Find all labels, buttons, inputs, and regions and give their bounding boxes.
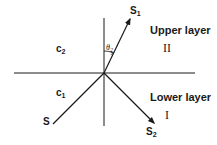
label-s1: S1: [130, 6, 141, 17]
label-s2: S2: [146, 127, 157, 138]
s1-base: S: [130, 5, 137, 16]
s2-base: S: [146, 126, 153, 137]
label-s-incident: S: [43, 117, 50, 127]
s1-sub: 1: [137, 10, 141, 17]
s2-sub: 2: [153, 131, 157, 138]
theta-sub: 2: [110, 47, 113, 53]
c2-sub: 2: [62, 48, 66, 55]
label-upper-numeral: II: [163, 42, 171, 54]
reflected-ray-s2: [104, 73, 154, 123]
label-theta2: θ2: [106, 37, 113, 53]
label-lower-layer: Lower layer: [150, 92, 211, 103]
diagram-canvas: [0, 0, 217, 145]
label-upper-layer: Upper layer: [150, 25, 211, 36]
label-c2: c2: [56, 44, 65, 55]
label-c1: c1: [56, 88, 65, 99]
c1-sub: 1: [62, 92, 66, 99]
label-lower-numeral: I: [165, 109, 169, 121]
